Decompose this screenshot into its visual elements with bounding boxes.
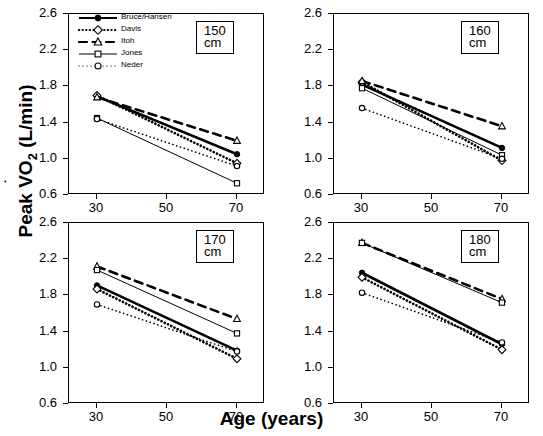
- series-neder: [359, 105, 504, 161]
- legend-item-neder: Neder: [77, 58, 189, 70]
- y-axis-tick: [63, 49, 68, 50]
- series-davis: [358, 273, 506, 353]
- series-layer: [69, 223, 265, 404]
- x-axis-tick: [236, 194, 237, 199]
- chart-legend: Bruce/HansenDavisItohJonesNeder: [77, 10, 189, 70]
- y-axis-tick-label: 2.2: [288, 43, 322, 55]
- x-axis-tick-label: 50: [151, 202, 181, 214]
- y-axis-tick-label: 1.0: [23, 152, 57, 164]
- y-axis-tick: [328, 13, 333, 14]
- y-axis-tick: [63, 331, 68, 332]
- legend-item-bruce-hansen: Bruce/Hansen: [77, 10, 189, 22]
- plot-area: [68, 222, 264, 403]
- figure-vo2-by-height: Peak V˙O2 (L/min) Age (years) 0.61.01.41…: [0, 0, 543, 436]
- x-axis-tick-label: 30: [81, 411, 111, 423]
- y-axis-tick-label: 1.8: [288, 288, 322, 300]
- y-axis-tick-label: 1.0: [288, 152, 322, 164]
- panel-label-150-cm: 150 cm: [196, 21, 234, 54]
- legend-label: Neder: [119, 60, 143, 69]
- y-axis-tick: [328, 331, 333, 332]
- y-axis-tick-label: 1.0: [288, 361, 322, 373]
- y-axis-tick-label: 1.8: [23, 79, 57, 91]
- x-axis-tick-label: 30: [346, 411, 376, 423]
- y-axis-tick-label: 1.8: [288, 79, 322, 91]
- x-axis-tick: [501, 194, 502, 199]
- y-axis-tick-label: 1.4: [288, 116, 322, 128]
- legend-marker-open-triangle-icon: [77, 34, 119, 46]
- legend-marker-filled-circle-icon: [77, 10, 119, 22]
- series-layer: [334, 14, 530, 195]
- series-jones: [94, 267, 239, 336]
- x-axis-tick-label: 50: [416, 202, 446, 214]
- x-axis-tick-label: 70: [486, 411, 516, 423]
- x-axis-tick: [96, 194, 97, 199]
- y-axis-tick-label: 1.0: [23, 361, 57, 373]
- plot-area: [333, 222, 529, 403]
- legend-label: Jones: [119, 48, 142, 57]
- y-axis-tick-label: 2.6: [23, 7, 57, 19]
- y-axis-tick: [63, 13, 68, 14]
- y-axis-tick: [328, 258, 333, 259]
- x-axis-tick: [361, 194, 362, 199]
- y-axis-tick: [328, 403, 333, 404]
- y-axis-tick: [63, 158, 68, 159]
- y-axis-tick-label: 2.2: [288, 252, 322, 264]
- y-axis-tick: [63, 294, 68, 295]
- series-neder: [94, 302, 239, 354]
- y-axis-tick-label: 1.4: [288, 325, 322, 337]
- legend-marker-open-diamond-icon: [77, 22, 119, 34]
- x-axis-tick-label: 50: [416, 411, 446, 423]
- legend-label: Itoh: [119, 36, 134, 45]
- y-axis-tick-label: 1.4: [23, 116, 57, 128]
- y-axis-tick-label: 2.2: [23, 43, 57, 55]
- y-axis-tick: [63, 222, 68, 223]
- y-axis-tick-label: 2.6: [23, 216, 57, 228]
- panel-label-170-cm: 170 cm: [196, 230, 234, 263]
- y-axis-tick: [63, 367, 68, 368]
- series-jones: [359, 86, 504, 158]
- x-axis-tick: [431, 194, 432, 199]
- legend-item-itoh: Itoh: [77, 34, 189, 46]
- y-axis-tick-label: 1.8: [23, 288, 57, 300]
- y-axis-tick-label: 0.6: [23, 397, 57, 409]
- y-axis-tick: [63, 85, 68, 86]
- x-axis-tick-label: 30: [346, 202, 376, 214]
- y-axis-tick: [328, 367, 333, 368]
- x-axis-tick-label: 30: [81, 202, 111, 214]
- x-axis-tick-label: 50: [151, 411, 181, 423]
- y-axis-tick: [328, 222, 333, 223]
- series-neder: [359, 290, 504, 345]
- plot-area: [333, 13, 529, 194]
- series-davis: [93, 285, 241, 363]
- series-layer: [334, 223, 530, 404]
- y-axis-tick-label: 2.6: [288, 216, 322, 228]
- x-axis-tick: [96, 403, 97, 408]
- x-axis-tick: [361, 403, 362, 408]
- y-axis-tick: [63, 258, 68, 259]
- legend-label: Davis: [119, 24, 141, 33]
- panel-label-180-cm: 180 cm: [461, 230, 499, 263]
- y-axis-tick-label: 0.6: [288, 188, 322, 200]
- y-axis-tick: [328, 294, 333, 295]
- y-axis-tick-label: 2.2: [23, 252, 57, 264]
- y-axis-tick: [63, 403, 68, 404]
- x-axis-tick: [236, 403, 237, 408]
- y-axis-tick: [328, 158, 333, 159]
- x-axis-tick: [501, 403, 502, 408]
- y-axis-tick-label: 2.6: [288, 7, 322, 19]
- y-axis-tick: [328, 122, 333, 123]
- legend-label: Bruce/Hansen: [119, 12, 172, 21]
- x-axis-tick-label: 70: [221, 202, 251, 214]
- y-axis-tick: [328, 85, 333, 86]
- legend-marker-open-square-icon: [77, 46, 119, 58]
- y-axis-tick-label: 1.4: [23, 325, 57, 337]
- series-itoh: [94, 263, 241, 322]
- panel-label-160-cm: 160 cm: [461, 21, 499, 54]
- legend-marker-open-circle-icon: [77, 58, 119, 70]
- x-axis-tick-label: 70: [486, 202, 516, 214]
- y-axis-tick: [63, 122, 68, 123]
- x-axis-tick: [431, 403, 432, 408]
- x-axis-tick-label: 70: [221, 411, 251, 423]
- series-itoh: [94, 94, 241, 144]
- y-axis-tick: [328, 194, 333, 195]
